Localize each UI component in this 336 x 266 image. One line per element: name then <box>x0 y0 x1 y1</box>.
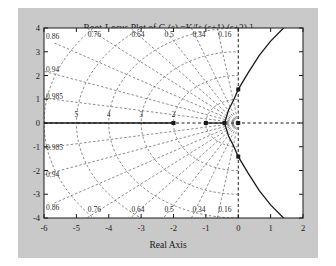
x-tick-label: -1 <box>202 224 209 233</box>
damping-ratio-label: 0.86 <box>46 33 59 41</box>
x-tick-label: -2 <box>170 224 177 233</box>
y-tick-label: 4 <box>22 24 40 33</box>
natural-frequency-label: 5 <box>74 111 78 119</box>
x-tick-label: -5 <box>73 224 80 233</box>
damping-ratio-label: 0.86 <box>46 204 59 212</box>
damping-ratio-label: 0.94 <box>46 171 59 179</box>
damping-ratio-label: 0.34 <box>192 31 205 39</box>
x-tick-label: 0 <box>236 224 240 233</box>
damping-ratio-label: 0.5 <box>164 206 173 214</box>
y-tick-label: 1 <box>22 95 40 104</box>
damping-ratio-label: 0.985 <box>46 144 63 152</box>
damping-ratio-label: 0.64 <box>131 31 144 39</box>
natural-frequency-label: 2 <box>172 111 176 119</box>
damping-ratio-label: 0.76 <box>88 31 101 39</box>
x-tick-label: -4 <box>105 224 112 233</box>
damping-ratio-label: 0.94 <box>46 66 59 74</box>
damping-ratio-label: 0.985 <box>46 93 63 101</box>
natural-frequency-label: 4 <box>107 111 111 119</box>
damping-ratio-label: 0.34 <box>192 206 205 214</box>
y-tick-label: -2 <box>22 166 40 175</box>
x-tick-label: -3 <box>138 224 145 233</box>
damping-ratio-label: 0.64 <box>131 206 144 214</box>
y-tick-label: 3 <box>22 48 40 57</box>
x-tick-label: -6 <box>40 224 47 233</box>
x-tick-label: 1 <box>269 224 273 233</box>
damping-ratio-label: 0.16 <box>218 31 231 39</box>
y-tick-label: -3 <box>22 190 40 199</box>
y-tick-label: 0 <box>22 119 40 128</box>
root-locus-plot <box>18 8 318 258</box>
x-tick-label: 2 <box>301 224 305 233</box>
damping-ratio-label: 0.76 <box>88 206 101 214</box>
damping-ratio-label: 0.5 <box>164 31 173 39</box>
damping-ratio-label: 0.16 <box>218 206 231 214</box>
y-tick-label: -1 <box>22 143 40 152</box>
figure-panel: Root-Locus Plot of G (s) =K/[s (s+1) (s+… <box>18 8 318 258</box>
natural-frequency-label: 3 <box>139 111 143 119</box>
y-tick-label: 2 <box>22 71 40 80</box>
y-tick-label: -4 <box>22 214 40 223</box>
